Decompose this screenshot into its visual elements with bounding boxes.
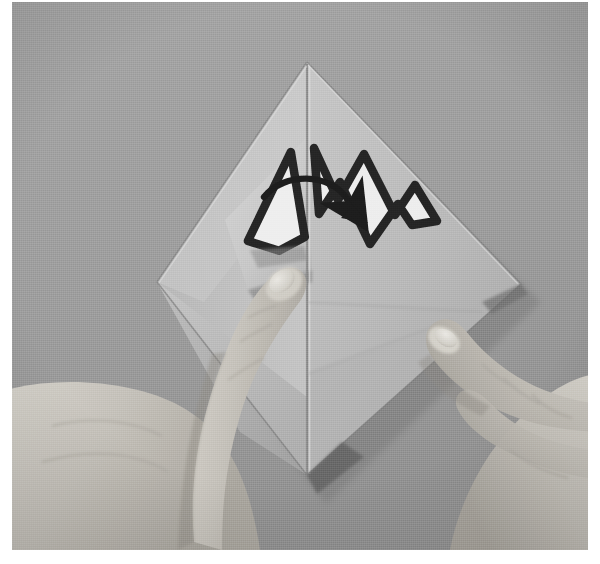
- origami-step-photograph: [12, 2, 588, 550]
- photo-page: A grayscale photograph of a diamond-shap…: [0, 0, 600, 564]
- photograph-canvas: [12, 2, 588, 550]
